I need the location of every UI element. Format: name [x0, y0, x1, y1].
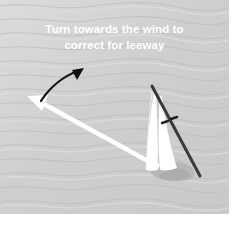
sailing-leeway-figure: Turn towards the wind to correct for lee… [0, 0, 235, 227]
diagram-overlay [0, 0, 235, 227]
heading-arrow-icon [27, 95, 159, 167]
